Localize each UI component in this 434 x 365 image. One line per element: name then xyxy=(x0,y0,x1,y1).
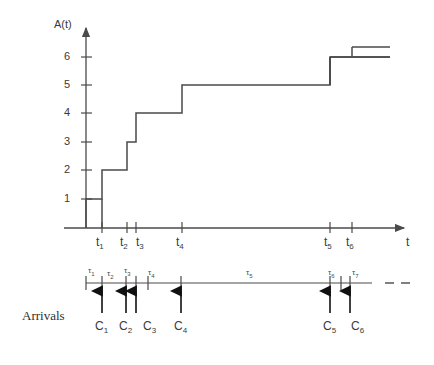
x-tick-t4: t4 xyxy=(176,236,184,251)
x-tick-t6-sub: 6 xyxy=(349,242,353,251)
y-axis xyxy=(81,28,92,228)
customer-c1-sub: 1 xyxy=(104,326,108,335)
customer-c4-base: C xyxy=(174,319,183,333)
tau-3-label: τ3 xyxy=(124,267,131,277)
customer-c6-sub: 6 xyxy=(360,326,364,335)
customer-c1: C1 xyxy=(95,320,108,335)
x-tick-t1-sub: 1 xyxy=(99,242,103,251)
customer-c3-sub: 3 xyxy=(152,326,156,335)
customer-c4: C4 xyxy=(174,320,187,335)
figure-counting-process: A(t) 6 5 4 3 2 1 t1 t2 t3 t4 t5 t6 t τ1 … xyxy=(0,0,434,365)
y-tick-3: 3 xyxy=(64,136,70,147)
step-final-segments xyxy=(330,47,390,85)
x-tick-t2-sub: 2 xyxy=(123,242,127,251)
customer-c3-base: C xyxy=(143,319,152,333)
customer-c1-base: C xyxy=(95,319,104,333)
y-axis-label: A(t) xyxy=(54,19,72,30)
x-tick-t5: t5 xyxy=(324,236,332,251)
arrival-arrows xyxy=(102,291,350,313)
tau-7-sub: 7 xyxy=(355,273,358,279)
customer-c6: C6 xyxy=(351,320,364,335)
x-tick-t3-sub: 3 xyxy=(139,242,143,251)
tau-4-sub: 4 xyxy=(151,273,154,279)
x-tick-t3: t3 xyxy=(136,236,144,251)
arrivals-label: Arrivals xyxy=(22,309,65,322)
x-axis xyxy=(64,222,404,233)
tau-6-sub: 6 xyxy=(331,273,334,279)
customer-c6-base: C xyxy=(351,319,360,333)
tau-4-label: τ4 xyxy=(148,269,155,279)
customer-c2: C2 xyxy=(119,320,132,335)
x-axis-label: t xyxy=(406,236,409,248)
tau-1-sub: 1 xyxy=(91,271,94,277)
y-tick-4: 4 xyxy=(64,107,70,118)
tau-6-label: τ6 xyxy=(328,269,335,279)
x-tick-t1: t1 xyxy=(96,236,104,251)
customer-c2-sub: 2 xyxy=(128,326,132,335)
step-riser-t6 xyxy=(330,47,352,57)
tau-3-sub: 3 xyxy=(127,271,130,277)
tau-2-sub: 2 xyxy=(110,274,113,280)
customer-c4-sub: 4 xyxy=(183,326,187,335)
y-tick-1: 1 xyxy=(64,193,70,204)
tau-7-label: τ7 xyxy=(352,269,359,279)
y-tick-5: 5 xyxy=(64,79,70,90)
customer-c3: C3 xyxy=(143,320,156,335)
customer-c5-sub: 5 xyxy=(332,326,336,335)
y-tick-6: 6 xyxy=(64,51,70,62)
step-function-curve xyxy=(86,28,390,228)
customer-c5-base: C xyxy=(323,319,332,333)
x-tick-t4-sub: 4 xyxy=(179,242,183,251)
x-tick-t2: t2 xyxy=(120,236,128,251)
customer-c5: C5 xyxy=(323,320,336,335)
customer-c2-base: C xyxy=(119,319,128,333)
tau-2-label: τ2 xyxy=(107,270,114,280)
y-tick-2: 2 xyxy=(64,164,70,175)
x-tick-t5-sub: 5 xyxy=(327,242,331,251)
tau-5-sub: 5 xyxy=(249,273,252,279)
x-tick-t6: t6 xyxy=(346,236,354,251)
tau-5-label: τ5 xyxy=(246,269,253,279)
tau-1-label: τ1 xyxy=(88,267,95,277)
